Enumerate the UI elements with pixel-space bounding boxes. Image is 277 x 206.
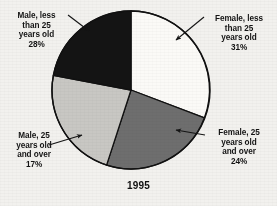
chart-title: 1995 bbox=[0, 180, 277, 191]
slice-label-female-under25: Female, less than 25 years old 31% bbox=[205, 14, 273, 52]
slice-label-female-over25: Female, 25 years old and over 24% bbox=[204, 128, 274, 166]
leader-line-male-under25 bbox=[68, 15, 89, 31]
slice-label-male-over25: Male, 25 years old and over 17% bbox=[3, 131, 65, 169]
slice-label-male-under25: Male, less than 25 years old 28% bbox=[5, 11, 68, 49]
pie-chart-figure: Male, less than 25 years old 28% Female,… bbox=[0, 0, 277, 206]
